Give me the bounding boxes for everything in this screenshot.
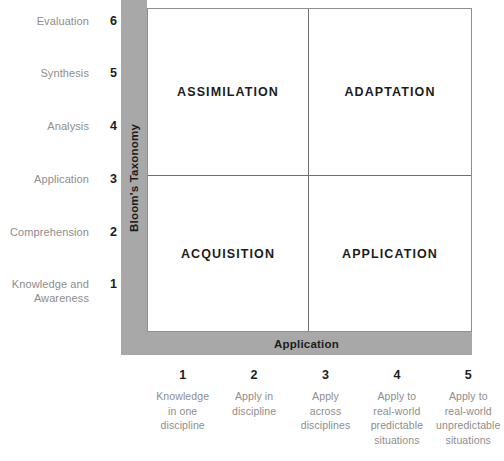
x-axis-level-1: 1 Knowledge in one discipline: [147, 368, 218, 433]
y-axis-level-3-number: 3: [89, 172, 117, 186]
x-axis-level-4-label: Apply to real-world predictable situatio…: [371, 389, 423, 447]
y-axis-level-1-number: 1: [89, 277, 117, 291]
x-axis-level-5-label: Apply to real-world unpredictable situat…: [436, 389, 500, 447]
y-axis-level-2: Comprehension 2: [10, 225, 117, 239]
y-axis-level-6-label: Evaluation: [37, 14, 89, 28]
quadrant-adaptation-label: ADAPTATION: [344, 85, 435, 99]
quadrant-application-label: APPLICATION: [342, 247, 438, 261]
quadrant-assimilation-label: ASSIMILATION: [177, 85, 279, 99]
y-axis-level-5-label: Synthesis: [40, 66, 89, 80]
quadrant-assimilation: ASSIMILATION: [148, 9, 309, 176]
x-axis-level-4-number: 4: [393, 368, 400, 383]
y-axis-level-5-number: 5: [89, 66, 117, 80]
x-axis-level-3: 3 Apply across disciplines: [290, 368, 361, 433]
x-axis-level-2-label: Apply in discipline: [232, 389, 276, 418]
x-axis-level-1-number: 1: [179, 368, 186, 383]
y-axis-level-4-number: 4: [89, 119, 117, 133]
vertical-axis-band: Bloom's Taxonomy: [121, 0, 147, 355]
y-axis-level-1-label: Knowledge and Awareness: [12, 277, 89, 305]
y-axis-level-4-label: Analysis: [47, 119, 89, 133]
x-axis-level-3-number: 3: [322, 368, 329, 383]
x-axis-level-5: 5 Apply to real-world unpredictable situ…: [433, 368, 504, 447]
y-axis-level-2-number: 2: [89, 225, 117, 239]
horizontal-axis-band: Application: [121, 332, 472, 355]
x-axis-level-5-number: 5: [465, 368, 472, 383]
quadrant-adaptation: ADAPTATION: [309, 9, 471, 176]
quadrant-acquisition-label: ACQUISITION: [181, 247, 275, 261]
x-axis-level-1-label: Knowledge in one discipline: [156, 389, 209, 433]
x-axis-scale: 1 Knowledge in one discipline 2 Apply in…: [147, 368, 504, 461]
y-axis-level-4: Analysis 4: [47, 119, 117, 133]
y-axis-level-3-label: Application: [34, 172, 89, 186]
vertical-axis-title: Bloom's Taxonomy: [128, 124, 140, 232]
y-axis-level-2-label: Comprehension: [10, 225, 89, 239]
y-axis-level-6-number: 6: [89, 14, 117, 28]
y-axis-level-3: Application 3: [34, 172, 117, 186]
y-axis-level-6: Evaluation 6: [37, 14, 117, 28]
x-axis-level-4: 4 Apply to real-world predictable situat…: [361, 368, 432, 447]
y-axis-scale: Evaluation 6 Synthesis 5 Analysis 4 Appl…: [0, 0, 117, 332]
quadrant-grid: ASSIMILATION ADAPTATION ACQUISITION APPL…: [147, 8, 472, 332]
x-axis-level-2: 2 Apply in discipline: [218, 368, 289, 418]
quadrant-application: APPLICATION: [309, 176, 471, 331]
y-axis-level-5: Synthesis 5: [40, 66, 117, 80]
x-axis-level-3-label: Apply across disciplines: [301, 389, 351, 433]
quadrant-acquisition: ACQUISITION: [148, 176, 309, 331]
horizontal-axis-title: Application: [254, 338, 339, 350]
x-axis-level-2-number: 2: [251, 368, 258, 383]
blooms-taxonomy-application-matrix: Evaluation 6 Synthesis 5 Analysis 4 Appl…: [0, 0, 504, 461]
y-axis-level-1: Knowledge and Awareness 1: [12, 277, 117, 305]
